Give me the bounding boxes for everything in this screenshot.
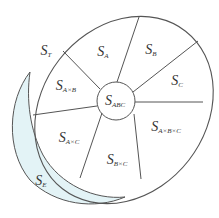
label-s-a: SA bbox=[97, 45, 108, 60]
divider-a-b bbox=[117, 17, 139, 82]
label-s-axc: SA×C bbox=[59, 131, 80, 146]
diagram-canvas: ST SA SB SC SA×B SABC SA×B×C SA×C SB×C S… bbox=[0, 0, 219, 218]
divider-b-c bbox=[133, 41, 198, 92]
label-s-bxc: SB×C bbox=[107, 153, 128, 168]
label-s-b: SB bbox=[145, 43, 156, 58]
divider-axc-bxc bbox=[80, 113, 102, 178]
divider-bxc-axbxc bbox=[134, 114, 141, 179]
label-s-c: SC bbox=[171, 74, 183, 89]
label-s-e: SE bbox=[35, 174, 46, 189]
divider-axb-axc bbox=[33, 106, 97, 115]
label-s-abc: SABC bbox=[105, 94, 125, 109]
diagram-shapes bbox=[0, 0, 219, 218]
label-s-axb: SA×B bbox=[56, 79, 76, 94]
label-s-axbxc: SA×B×C bbox=[151, 120, 181, 135]
label-s-t: ST bbox=[41, 44, 52, 59]
